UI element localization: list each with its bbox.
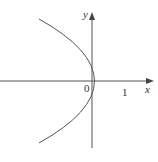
x-axis-label: x [144,83,150,95]
y-axis-label: y [82,8,88,20]
parabola-graph: y 0 1 x [0,0,158,162]
origin-label: 0 [84,82,90,94]
x-tick-label-1: 1 [122,86,128,98]
y-axis-arrow-icon [89,12,95,20]
